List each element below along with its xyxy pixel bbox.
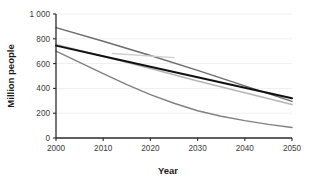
x-tick-label-2010: 2010 (94, 144, 113, 153)
x-tick-label-2020: 2020 (141, 144, 160, 153)
y-tick-label-1000: 1 000 (30, 10, 51, 19)
y-tick-label-800: 800 (36, 35, 50, 44)
x-tick-label-2050: 2050 (283, 144, 302, 153)
y-tick-label-400: 400 (36, 84, 50, 93)
x-axis-title: Year (158, 165, 178, 176)
x-tick-label-2000: 2000 (47, 144, 66, 153)
chart-figure: 200020102020203020402050 02004006008001 … (0, 0, 311, 180)
x-tick-label-2030: 2030 (188, 144, 207, 153)
x-tick-label-2040: 2040 (236, 144, 255, 153)
y-tick-label-200: 200 (36, 109, 50, 118)
y-tick-label-0: 0 (45, 134, 50, 143)
y-tick-label-600: 600 (36, 60, 50, 69)
line-chart: 200020102020203020402050 02004006008001 … (0, 0, 311, 180)
y-axis-title: Million people (5, 44, 16, 107)
